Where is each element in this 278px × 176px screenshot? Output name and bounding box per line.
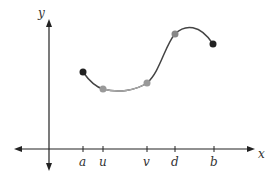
point-a xyxy=(80,69,87,76)
tick-label-b: b xyxy=(210,155,218,169)
tick-label-v: v xyxy=(143,155,150,169)
point-d xyxy=(172,31,179,38)
x-axis-label: x xyxy=(258,147,265,161)
y-axis-label: y xyxy=(37,6,45,20)
y-axis-arrow-up-icon xyxy=(46,19,52,27)
tick-label-u: u xyxy=(99,155,107,169)
x-axis-arrow-left-icon xyxy=(14,146,22,152)
point-u xyxy=(100,86,107,93)
function-graph: y x a u v d b xyxy=(0,0,278,176)
x-axis-arrow-right-icon xyxy=(247,146,255,152)
point-b xyxy=(210,41,217,48)
tick-label-d: d xyxy=(171,155,179,169)
tick-label-a: a xyxy=(79,155,86,169)
function-curve-light-segment xyxy=(103,83,147,91)
point-v xyxy=(144,80,151,87)
y-axis-arrow-down-icon xyxy=(46,163,52,171)
